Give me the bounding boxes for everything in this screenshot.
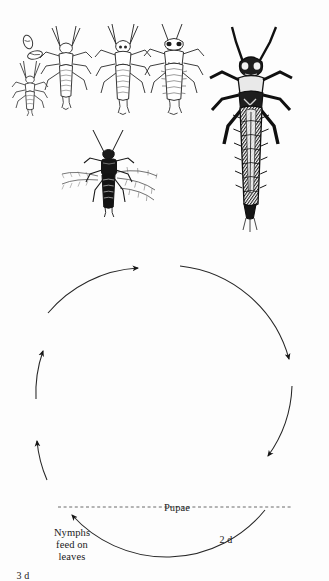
thrips-life-cycle-figure: Pupae Nymphs feed on leaves 2 d 3 d Nymp…	[0, 0, 329, 581]
node-label-pupae: Pupae	[147, 502, 207, 514]
node-label-nymphs-late: Nymphs feed on leaves	[34, 527, 110, 562]
specimen-plate-drawing	[0, 0, 329, 240]
life-cycle-diagram: Pupae Nymphs feed on leaves 2 d 3 d Nymp…	[0, 240, 329, 581]
duration-label-pupae-to-adults: 2 d	[209, 534, 243, 545]
specimen-plate	[0, 0, 329, 240]
duration-label-nymphs-early-to-late: 3 d	[8, 570, 38, 581]
